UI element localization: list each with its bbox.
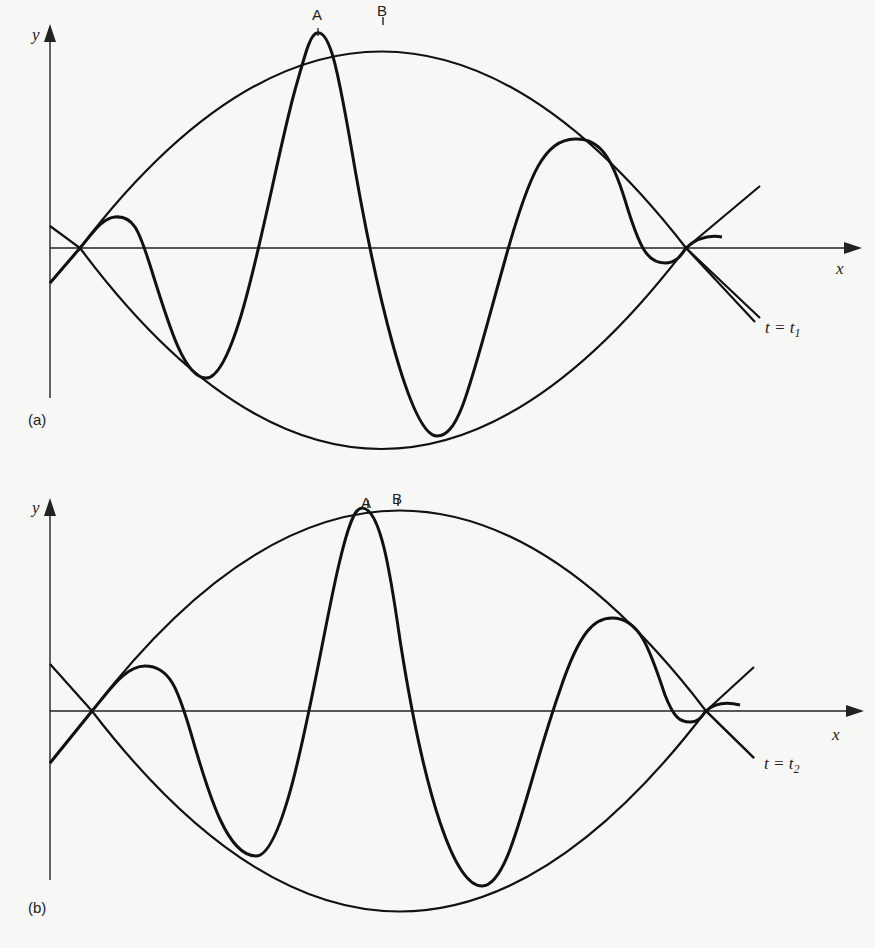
point-a-label-b: A bbox=[361, 494, 371, 511]
time-marker-line-b bbox=[706, 711, 754, 758]
x-axis-label-b: x bbox=[831, 725, 840, 744]
x-axis-arrow-b bbox=[846, 705, 864, 717]
time-label-b: t = t2 bbox=[764, 754, 799, 776]
time-label-a: t = t1 bbox=[765, 318, 800, 340]
time-marker-line-a bbox=[686, 248, 755, 322]
panel-a: y x A B t = t1 (a) bbox=[28, 2, 862, 449]
y-axis-arrow-b bbox=[44, 498, 56, 516]
wave-a bbox=[50, 33, 722, 436]
x-axis-label-a: x bbox=[835, 259, 844, 278]
wave-b bbox=[50, 508, 740, 886]
envelope-upper-b bbox=[50, 511, 754, 764]
y-axis-label-a: y bbox=[30, 25, 40, 44]
panel-label-b: (b) bbox=[28, 899, 46, 916]
point-b-label-b: B bbox=[392, 490, 402, 507]
wave-packet-diagram: y x A B t = t1 (a) y x bbox=[0, 0, 875, 948]
panel-b: y x A B t = t2 (b) bbox=[28, 490, 864, 916]
panel-label-a: (a) bbox=[28, 411, 46, 428]
x-axis-arrow-a bbox=[844, 242, 862, 254]
envelope-lower-b bbox=[50, 664, 754, 912]
y-axis-arrow-a bbox=[44, 24, 56, 42]
y-axis-label-b: y bbox=[30, 498, 40, 517]
point-a-label-a: A bbox=[312, 6, 322, 23]
point-b-label-a: B bbox=[377, 2, 387, 19]
